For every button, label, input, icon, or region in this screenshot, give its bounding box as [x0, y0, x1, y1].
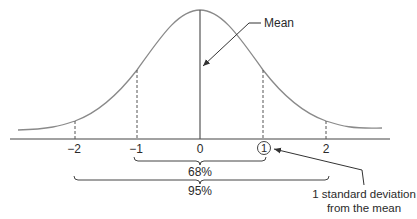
mean-label: Mean	[264, 16, 294, 30]
tick-minus-2: −2	[67, 142, 81, 156]
tick-minus-1: −1	[129, 142, 143, 156]
sd-label-line2: from the mean	[327, 202, 401, 214]
normal-distribution-diagram: −2 −1 0 1 2 68% 95% Mean 1 standard devi…	[0, 0, 417, 219]
brace-68	[134, 157, 266, 165]
label-95: 95%	[188, 184, 212, 198]
tick-0: 0	[197, 142, 204, 156]
tick-1: 1	[261, 142, 267, 154]
label-68: 68%	[188, 165, 212, 179]
tick-2: 2	[323, 142, 330, 156]
sd-label-line1: 1 standard deviation	[312, 188, 416, 200]
